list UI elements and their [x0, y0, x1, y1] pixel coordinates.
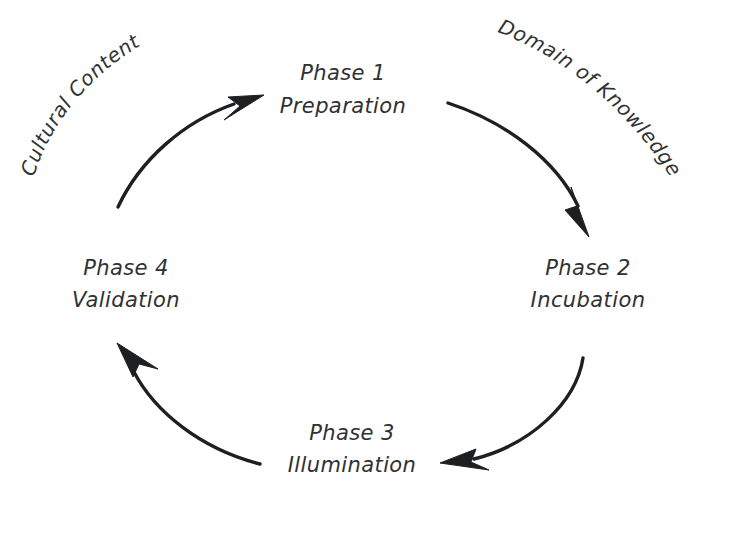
- node-phase-2-subheading: Incubation: [531, 288, 646, 312]
- node-phase-4-subheading: Validation: [72, 288, 180, 312]
- edge-label-domain-of-knowledge: Domain of Knowledge: [495, 14, 687, 181]
- edge-phase2-to-phase3-curve: [474, 358, 583, 459]
- node-phase-3-heading: Phase 3: [309, 421, 395, 445]
- node-phase-3-subheading: Illumination: [288, 453, 417, 477]
- node-phase-2[interactable]: Phase 2 Incubation: [531, 256, 646, 312]
- edge-phase3-to-phase4: [117, 343, 260, 464]
- node-phase-1-subheading: Preparation: [280, 94, 407, 118]
- edge-phase3-to-phase4-arrowhead: [117, 343, 158, 377]
- edge-phase1-to-phase2-arrowhead: [565, 187, 589, 237]
- edge-phase4-to-phase1-arrowhead: [224, 95, 264, 120]
- edge-label-cultural-content: Cultural Content: [16, 29, 145, 179]
- edge-phase1-to-phase2: [448, 103, 589, 237]
- edge-phase1-to-phase2-curve: [448, 103, 578, 206]
- edge-label-cultural-content-text: Cultural Content: [16, 29, 145, 179]
- node-phase-4[interactable]: Phase 4 Validation: [72, 256, 180, 312]
- node-phase-1[interactable]: Phase 1 Preparation: [280, 61, 407, 118]
- diagram-canvas: Phase 1 Preparation Phase 2 Incubation P…: [0, 0, 741, 560]
- edge-phase4-to-phase1-curve: [118, 104, 234, 207]
- node-phase-2-heading: Phase 2: [545, 256, 631, 280]
- edge-phase4-to-phase1: [118, 95, 264, 207]
- edge-phase2-to-phase3: [440, 358, 583, 470]
- edge-label-domain-of-knowledge-text: Domain of Knowledge: [495, 14, 687, 181]
- node-phase-3[interactable]: Phase 3 Illumination: [288, 421, 417, 477]
- node-phase-1-heading: Phase 1: [300, 61, 386, 85]
- edge-phase3-to-phase4-curve: [134, 372, 260, 464]
- edge-phase2-to-phase3-arrowhead: [440, 449, 489, 470]
- node-phase-4-heading: Phase 4: [83, 256, 169, 280]
- cycle-diagram: Phase 1 Preparation Phase 2 Incubation P…: [0, 0, 741, 560]
